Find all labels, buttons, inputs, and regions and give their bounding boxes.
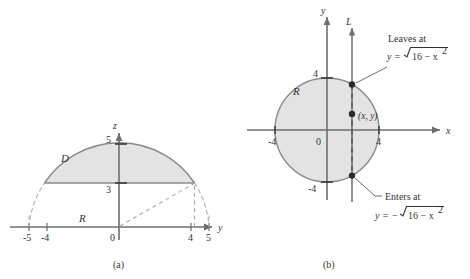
- point-label-xy: (x, y): [358, 111, 378, 122]
- leaves-at-radicand: 16 − x: [412, 51, 438, 62]
- axis-y-arrowhead-b: [324, 17, 331, 25]
- region-label-r-b: R: [292, 85, 300, 97]
- enters-at-radicand: 16 − x: [408, 210, 434, 221]
- region-label-d: D: [60, 152, 69, 164]
- leaves-at-formula: y = 16 − x 2: [386, 45, 448, 62]
- axis-label-y-b: y: [320, 5, 326, 16]
- leaves-at-formula-lhs: y =: [386, 51, 401, 62]
- semicircle-dashed-left-arc: [29, 183, 45, 227]
- tick-label-z-3: 3: [106, 184, 111, 195]
- axis-z-arrowhead: [116, 133, 123, 141]
- tick-label-x-minus-4: -4: [268, 136, 276, 147]
- line-L-arrowhead: [349, 28, 355, 36]
- tick-label-5: 5: [206, 232, 211, 243]
- semicircle-dashed-right-arc: [195, 183, 210, 227]
- tick-label-y-minus-4: -4: [308, 183, 316, 194]
- origin-label-a: 0: [110, 232, 115, 243]
- panel-a-caption: (a): [113, 259, 124, 271]
- enters-at-title: Enters at: [385, 191, 420, 202]
- panel-b-caption: (b): [323, 259, 335, 271]
- leaves-at-exponent: 2: [442, 45, 447, 56]
- leaves-at-title: Leaves at: [388, 33, 426, 44]
- panel-b-diagram: x y L -4 4 4 -4 0 R (x, y) Leaves at y =…: [235, 0, 470, 279]
- enters-at-formula-lhs: y =: [374, 210, 389, 221]
- region-label-r-a: R: [78, 212, 86, 224]
- leader-line-leaves: [356, 67, 387, 83]
- axis-label-x: x: [445, 125, 451, 136]
- origin-label-b: 0: [316, 136, 321, 147]
- panel-a-diagram: y z -5 -4 4 5 5 3 0 D R (a): [0, 0, 235, 279]
- axis-label-z: z: [112, 120, 117, 131]
- tick-label-minus-4: -4: [41, 232, 49, 243]
- tick-label-x-4: 4: [376, 136, 381, 147]
- enters-at-exponent: 2: [438, 204, 443, 215]
- tick-label-4: 4: [188, 232, 193, 243]
- point-enters: [349, 172, 355, 178]
- tick-label-y-4: 4: [313, 68, 318, 79]
- axis-y-arrowhead: [204, 224, 212, 231]
- point-xy: [349, 111, 355, 117]
- dashed-radius: [120, 184, 194, 227]
- axis-label-y: y: [217, 222, 223, 233]
- leader-line-enters: [355, 178, 382, 196]
- tick-label-z-5: 5: [106, 134, 111, 145]
- tick-label-minus-5: -5: [23, 232, 31, 243]
- axis-x-arrowhead: [432, 127, 440, 134]
- figure-root: y z -5 -4 4 5 5 3 0 D R (a): [0, 0, 470, 279]
- enters-at-formula: y = − 16 − x 2: [374, 204, 444, 221]
- point-leaves: [349, 81, 355, 87]
- line-label-L: L: [345, 16, 352, 27]
- enters-at-minus-sign: −: [392, 210, 398, 221]
